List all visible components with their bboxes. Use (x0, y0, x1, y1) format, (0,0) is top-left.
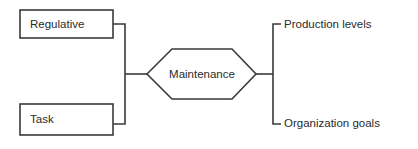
node-task[interactable]: Task (20, 104, 113, 135)
diagram-canvas: Regulative Task Maintenance Production l… (0, 0, 418, 149)
node-regulative[interactable]: Regulative (20, 10, 113, 38)
maintenance-flow-diagram: Regulative Task Maintenance Production l… (0, 0, 418, 149)
regulative-label: Regulative (30, 18, 84, 30)
maintenance-label: Maintenance (169, 68, 235, 80)
node-maintenance[interactable]: Maintenance (147, 49, 256, 99)
output-production-levels-label: Production levels (284, 18, 372, 30)
output-bus-connector (273, 24, 281, 124)
output-organization-goals-label: Organization goals (284, 117, 380, 129)
task-label: Task (30, 113, 54, 125)
input-bus-connector (113, 24, 125, 124)
